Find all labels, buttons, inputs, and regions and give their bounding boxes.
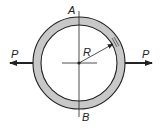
ring-diagram: A B R P P [0,0,160,128]
label-force-left: P [11,48,19,60]
label-a: A [67,4,75,16]
label-force-right: P [142,48,150,60]
label-b: B [82,111,89,123]
label-radius: R [83,46,91,58]
